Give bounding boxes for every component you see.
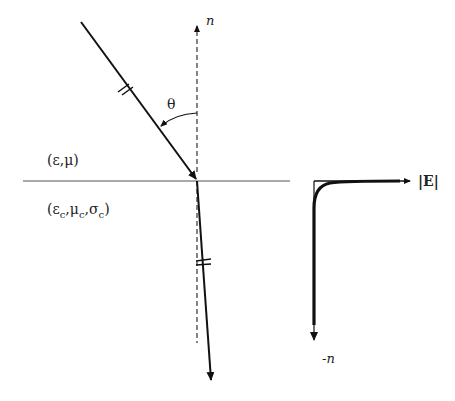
field-axis-label: |E|	[418, 173, 439, 190]
refraction-diagram: n θ (ε,μ) (εc,μc,σc) |E| -n	[0, 0, 455, 401]
incident-ray	[81, 22, 196, 179]
upper-medium-label: (ε,μ)	[47, 152, 79, 168]
field-decay-curve	[314, 181, 400, 325]
depth-axis-label: -n	[322, 351, 335, 366]
field-decay-plot: |E| -n	[314, 173, 439, 366]
refracted-ray	[197, 181, 211, 380]
angle-label: θ	[167, 96, 175, 112]
lower-medium-label: (εc,μc,σc)	[47, 201, 110, 220]
normal-label: n	[206, 13, 214, 28]
angle-arc	[161, 113, 197, 126]
hatch-marks-incident	[118, 84, 133, 95]
